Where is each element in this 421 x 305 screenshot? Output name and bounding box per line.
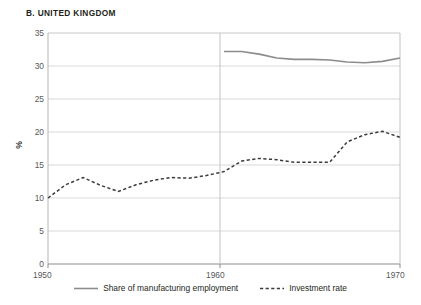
x-axis-ticks [48,264,400,268]
chart-figure: B. UNITED KINGDOM % 35 30 25 20 15 10 5 … [0,0,421,305]
plot-area [0,0,421,305]
legend-item-share-of-manufacturing-employment: Share of manufacturing employment [74,283,238,293]
legend-swatch-dashed [260,285,284,292]
axis-lines [48,33,400,264]
series-line-share-of-manufacturing-employment [224,51,400,62]
legend-label-investment: Investment rate [289,283,347,293]
legend-swatch-solid [74,285,98,292]
legend-item-investment-rate: Investment rate [260,283,347,293]
legend-label-share: Share of manufacturing employment [103,283,238,293]
legend: Share of manufacturing employment Invest… [0,283,421,293]
